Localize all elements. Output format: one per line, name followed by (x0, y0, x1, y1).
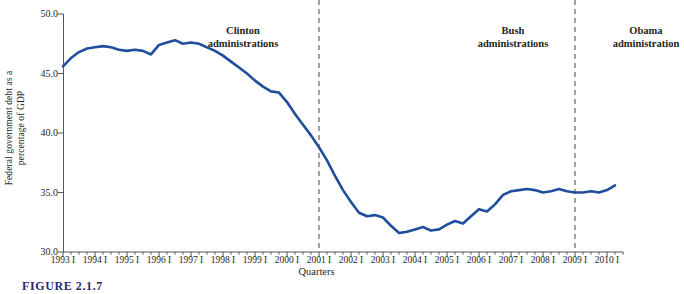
x-tick-label: 1996 I (147, 254, 172, 266)
annotation-clinton-line2: administrations (163, 37, 323, 50)
x-tick-label: 2005 I (435, 254, 460, 266)
annotation-clinton-line1: Clinton (163, 24, 323, 37)
plot-area: Clinton administrations Bush administrat… (63, 14, 623, 252)
y-tick-label: 45.0 (22, 69, 58, 79)
x-tick-label: 1994 I (83, 254, 108, 266)
y-axis-title-line1: Federal government debt as a (4, 70, 16, 185)
annotation-clinton: Clinton administrations (163, 24, 323, 50)
y-tick-label: 50.0 (22, 9, 58, 19)
y-axis-ticks (58, 14, 64, 252)
annotation-obama-line2: administration (598, 37, 684, 50)
x-tick-label: 2010 I (595, 254, 620, 266)
annotation-bush: Bush administrations (433, 24, 593, 50)
x-tick-label: 2003 I (371, 254, 396, 266)
x-tick-label: 2004 I (403, 254, 428, 266)
x-tick-label: 2000 I (275, 254, 300, 266)
x-tick-label: 1993 I (51, 254, 76, 266)
y-axis-tick-labels: 30.035.040.045.050.0 (22, 0, 58, 288)
y-tick-label: 40.0 (22, 128, 58, 138)
x-tick-label: 2008 I (531, 254, 556, 266)
x-tick-label: 2001 I (307, 254, 332, 266)
x-axis-title: Quarters (0, 266, 633, 277)
annotation-obama-line1: Obama (598, 24, 684, 37)
x-tick-label: 2009 I (563, 254, 588, 266)
y-tick-label: 35.0 (22, 188, 58, 198)
annotation-bush-line2: administrations (433, 37, 593, 50)
annotation-obama: Obama administration (598, 24, 684, 50)
x-tick-label: 2006 I (467, 254, 492, 266)
x-tick-label: 2002 I (339, 254, 364, 266)
x-tick-label: 1999 I (243, 254, 268, 266)
x-tick-label: 1998 I (211, 254, 236, 266)
x-tick-label: 2007 I (499, 254, 524, 266)
figure-caption: FIGURE 2.1.7 (22, 279, 103, 294)
x-tick-label: 1997 I (179, 254, 204, 266)
x-tick-label: 1995 I (115, 254, 140, 266)
debt-series-line (63, 40, 615, 233)
annotation-bush-line1: Bush (433, 24, 593, 37)
